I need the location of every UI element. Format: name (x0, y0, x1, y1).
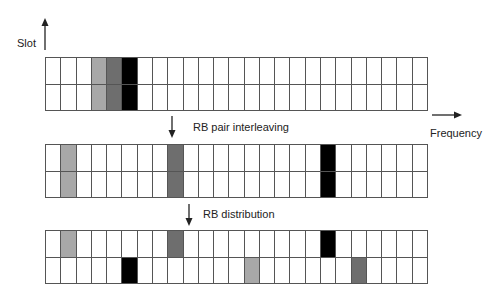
rb-cell (199, 58, 214, 85)
rb-cell (168, 258, 183, 285)
rb-grid-distributed (45, 230, 428, 284)
rb-cell (260, 231, 275, 258)
rb-cell (122, 231, 137, 258)
rb-cell (413, 258, 428, 285)
rb-cell (92, 145, 107, 172)
rb-cell (153, 258, 168, 285)
rb-cell (245, 231, 260, 258)
rb-cell (260, 172, 275, 199)
rb-cell (77, 58, 92, 85)
rb-cell (397, 58, 412, 85)
rb-cell (229, 231, 244, 258)
rb-cell (153, 145, 168, 172)
rb-cell (122, 145, 137, 172)
rb-cell (153, 85, 168, 112)
rb-cell (413, 85, 428, 112)
rb-cell (413, 231, 428, 258)
rb-cell (275, 172, 290, 199)
rb-cell (184, 258, 199, 285)
rb-cell (229, 172, 244, 199)
rb-cell (214, 231, 229, 258)
rb-cell (413, 172, 428, 199)
rb-cell (153, 58, 168, 85)
slot-axis-arrow-icon (40, 18, 50, 50)
rb-cell (275, 85, 290, 112)
rb-cell (306, 172, 321, 199)
rb-cell (92, 258, 107, 285)
rb-cell (306, 231, 321, 258)
rb-cell (107, 258, 122, 285)
rb-cell (290, 145, 305, 172)
step2-label: RB distribution (203, 208, 275, 220)
rb-cell (397, 85, 412, 112)
rb-cell-black (321, 231, 336, 258)
rb-cell (138, 231, 153, 258)
rb-cell (321, 58, 336, 85)
rb-cell (290, 231, 305, 258)
rb-cell (290, 58, 305, 85)
rb-cell-black (321, 172, 336, 199)
rb-cell (153, 231, 168, 258)
rb-cell (46, 172, 61, 199)
rb-cell (46, 58, 61, 85)
rb-cell-dark (168, 145, 183, 172)
rb-cell (138, 172, 153, 199)
rb-cell (367, 231, 382, 258)
rb-cell (260, 85, 275, 112)
rb-cell (290, 172, 305, 199)
rb-cell (352, 231, 367, 258)
rb-cell (214, 58, 229, 85)
rb-cell-dark (107, 58, 122, 85)
rb-cell-black (122, 258, 137, 285)
rb-cell (397, 145, 412, 172)
rb-cell-black (321, 145, 336, 172)
rb-cell (184, 85, 199, 112)
rb-cell (382, 258, 397, 285)
rb-cell (199, 258, 214, 285)
rb-cell (275, 258, 290, 285)
rb-cell (229, 145, 244, 172)
rb-cell (199, 85, 214, 112)
rb-cell-light (92, 85, 107, 112)
rb-cell-dark (168, 172, 183, 199)
rb-cell (92, 231, 107, 258)
rb-cell (290, 85, 305, 112)
rb-cell (413, 145, 428, 172)
rb-cell-dark (107, 85, 122, 112)
rb-cell (382, 145, 397, 172)
rb-cell (306, 58, 321, 85)
rb-cell (321, 258, 336, 285)
rb-cell (336, 231, 351, 258)
rb-cell (352, 172, 367, 199)
rb-cell (107, 172, 122, 199)
step1-down-arrow-icon (167, 116, 177, 138)
rb-cell (138, 58, 153, 85)
rb-cell (168, 58, 183, 85)
rb-cell (367, 85, 382, 112)
rb-cell (245, 145, 260, 172)
rb-cell-light (92, 58, 107, 85)
rb-cell (367, 145, 382, 172)
rb-cell (352, 145, 367, 172)
rb-cell-black (122, 58, 137, 85)
rb-cell-light (61, 172, 76, 199)
rb-cell (92, 172, 107, 199)
rb-cell (306, 258, 321, 285)
rb-cell (122, 172, 137, 199)
rb-cell (153, 172, 168, 199)
rb-cell (61, 58, 76, 85)
rb-cell (107, 231, 122, 258)
rb-cell (367, 258, 382, 285)
rb-cell (107, 145, 122, 172)
rb-cell (184, 231, 199, 258)
rb-cell (336, 258, 351, 285)
rb-cell (77, 85, 92, 112)
rb-cell (245, 172, 260, 199)
rb-grid-interleaved (45, 144, 428, 198)
rb-cell (229, 58, 244, 85)
rb-grid-original (45, 57, 428, 111)
rb-cell (199, 231, 214, 258)
step1-label: RB pair interleaving (193, 121, 289, 133)
rb-cell (138, 145, 153, 172)
rb-cell (184, 172, 199, 199)
